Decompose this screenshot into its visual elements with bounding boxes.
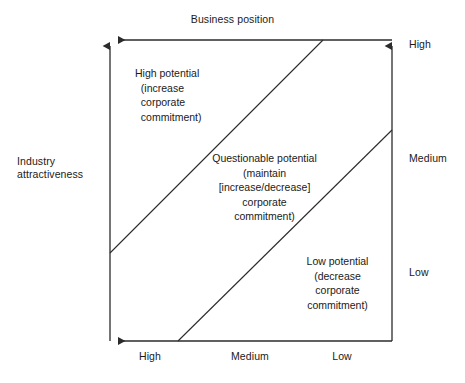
y-tick-label-low: Low [409,266,429,279]
x-tick-label-low: Low [312,350,372,363]
zone-label-questionable-potential: Questionable potential (maintain [increa… [197,151,332,224]
business-position-matrix-figure: Business position Industryattractiveness… [0,0,465,383]
y-tick-label-medium: Medium [409,152,447,165]
x-tick-label-medium: Medium [220,350,280,363]
zone-label-low-potential: Low potential (decrease corporate commit… [285,254,390,312]
y-axis-title-line1: Industry [17,155,55,167]
y-axis-title: Industryattractiveness [17,155,113,181]
zone-label-high-potential: High potential (increase corporate commi… [135,66,202,124]
y-axis-title-line2: attractiveness [17,168,83,180]
chart-title: Business position [0,13,465,26]
y-tick-label-high: High [409,38,431,51]
x-tick-label-high: High [120,350,180,363]
